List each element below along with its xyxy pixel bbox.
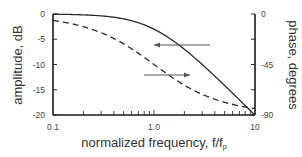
y-left-tick-label: 0 xyxy=(40,9,45,19)
x-tick-label: 10 xyxy=(250,122,260,132)
y-left-tick-label: -5 xyxy=(37,34,45,44)
axis-arrows xyxy=(144,43,210,78)
x-tick-label: 1.0 xyxy=(148,122,160,132)
y-left-axis-title: amplitude, dB xyxy=(10,25,25,105)
x-axis-ticks: 0.11.010 xyxy=(47,110,260,132)
y-right-tick-label: -90 xyxy=(261,110,274,120)
arrow-left-amplitude-head xyxy=(154,43,160,48)
x-axis-title-subscript: p xyxy=(223,143,227,151)
y-left-tick-label: -20 xyxy=(33,110,46,120)
y-right-axis-title: phase, degrees xyxy=(286,20,301,110)
x-axis-title-main: normalized frequency, f/f xyxy=(81,135,223,150)
x-tick-label: 0.1 xyxy=(47,122,59,132)
data-series xyxy=(53,14,255,115)
y-right-tick-label: 0 xyxy=(261,9,266,19)
phase-curve xyxy=(53,20,255,108)
y-right-tick-label: -45 xyxy=(261,60,274,70)
x-axis-title: normalized frequency, f/fp xyxy=(81,135,226,151)
bode-plot: 0.11.010 0-5-10-15-20 0-45-90 amplitude,… xyxy=(0,0,302,157)
y-left-tick-label: -10 xyxy=(33,60,46,70)
y-left-tick-label: -15 xyxy=(33,85,46,95)
arrow-right-phase-head xyxy=(184,73,190,78)
